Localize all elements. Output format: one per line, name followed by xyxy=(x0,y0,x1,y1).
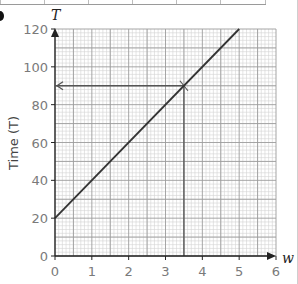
y-tick-labels: 020406080100120 xyxy=(23,22,55,264)
y-tick-label: 20 xyxy=(31,211,48,226)
x-tick-labels: 0123456 xyxy=(51,256,280,279)
y-tick-label: 120 xyxy=(23,22,48,37)
x-tick-label: 4 xyxy=(198,264,206,279)
x-tick-label: 0 xyxy=(51,264,59,279)
y-axis-letter: T xyxy=(51,7,62,23)
x-axis-arrow-icon xyxy=(267,252,276,260)
x-tick-label: 1 xyxy=(88,264,96,279)
y-tick-label: 80 xyxy=(31,98,48,113)
y-tick-label: 40 xyxy=(31,173,48,188)
x-tick-label: 3 xyxy=(161,264,169,279)
y-tick-label: 60 xyxy=(31,136,48,151)
y-tick-label: 0 xyxy=(40,249,48,264)
line-chart: 020406080100120 0123456 T w Time (T) xyxy=(0,0,298,284)
x-tick-label: 5 xyxy=(235,264,243,279)
x-tick-label: 6 xyxy=(272,264,280,279)
x-axis-letter: w xyxy=(282,250,294,266)
y-tick-label: 100 xyxy=(23,60,48,75)
y-axis-title: Time (T) xyxy=(6,116,21,171)
x-tick-label: 2 xyxy=(125,264,133,279)
